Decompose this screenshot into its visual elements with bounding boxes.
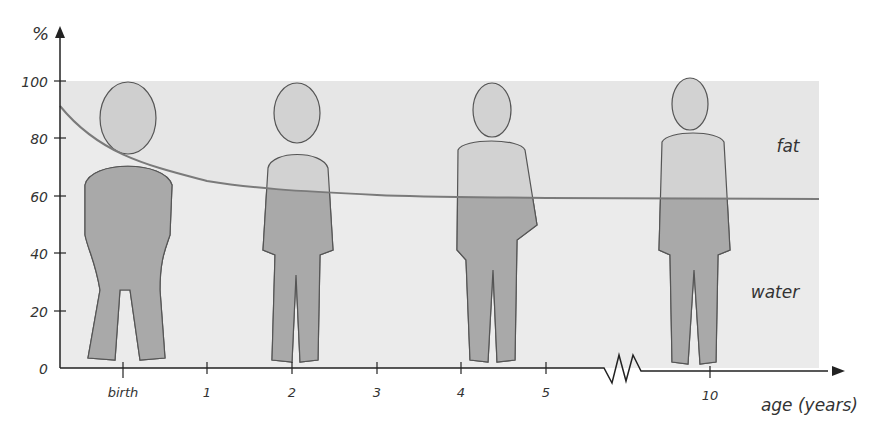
y-tick-60: 60 [30, 189, 48, 205]
x-tick-5: 5 [542, 385, 550, 400]
region-label-water: water [751, 282, 800, 302]
x-tick-4: 4 [457, 385, 465, 400]
y-tick-20: 20 [30, 304, 48, 320]
y-axis-arrow-icon [55, 26, 65, 38]
x-axis-label: age (years) [761, 395, 858, 415]
x-tick-10: 10 [702, 388, 719, 403]
y-tick-0: 0 [39, 361, 48, 377]
x-tick-2: 2 [288, 385, 296, 400]
body-water-fat-chart: % 100 80 60 40 20 0 birth 1 2 3 4 5 10 a… [0, 0, 886, 430]
y-tick-80: 80 [30, 131, 48, 147]
y-tick-40: 40 [30, 246, 48, 262]
x-tick-1: 1 [203, 385, 211, 400]
y-tick-100: 100 [21, 74, 48, 90]
y-axis-label: % [32, 23, 49, 44]
region-label-fat: fat [776, 136, 800, 156]
x-tick-birth: birth [108, 385, 139, 400]
x-tick-3: 3 [373, 385, 381, 400]
x-axis-arrow-icon [832, 366, 845, 376]
